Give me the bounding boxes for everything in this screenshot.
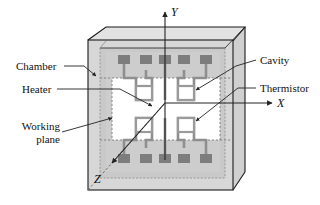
cavity-lower-right [178, 118, 194, 132]
callout-label-working-plane: Working plane [4, 120, 60, 146]
chamber-top-face [88, 27, 245, 41]
cavity-upper-right [178, 86, 194, 100]
axis-label-z: Z [94, 172, 101, 187]
bond-pad [140, 154, 152, 163]
callout-label-working-plane-line2: plane [4, 133, 60, 146]
bond-pad [118, 154, 130, 163]
chamber-right-face [233, 27, 245, 190]
bond-pad [178, 55, 190, 64]
callout-label-cavity: Cavity [260, 54, 289, 66]
bond-pad [200, 154, 212, 163]
callout-label-chamber: Chamber [16, 60, 56, 72]
bond-pad [200, 55, 212, 64]
bond-pad [140, 55, 152, 64]
schematic-drawing [0, 0, 320, 205]
cavity-upper-left [136, 86, 152, 100]
callout-label-heater: Heater [22, 83, 51, 95]
axis-label-y: Y [171, 5, 178, 20]
bond-pad [118, 55, 130, 64]
callout-label-thermistor: Thermistor [260, 82, 309, 94]
callout-label-working-plane-line1: Working [4, 120, 60, 133]
bond-pad [178, 154, 190, 163]
axis-label-x: X [277, 96, 284, 111]
figure-root: Chamber Heater Working plane Cavity Ther… [0, 0, 320, 205]
